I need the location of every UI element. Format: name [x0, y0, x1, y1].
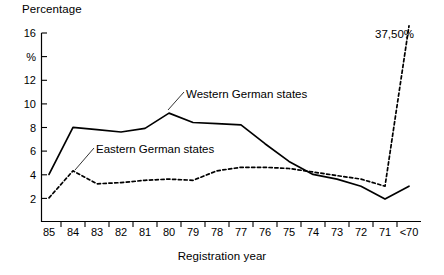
series-label-eastern-german-states: Eastern German states	[96, 143, 214, 155]
x-axis-title: Registration year	[0, 250, 444, 262]
x-axis-ticks	[61, 222, 397, 228]
leader-line-eastern	[75, 148, 94, 170]
peak-value-annotation: 37,50%	[375, 28, 414, 40]
leader-line-western	[168, 92, 184, 110]
series-line-western-german-states	[49, 113, 409, 199]
series-line-eastern-german-states	[49, 26, 409, 198]
plot-area	[0, 0, 444, 275]
series-label-western-german-states: Western German states	[186, 88, 307, 100]
line-chart: Percentage 16 % 12 10 8 6 4 2 85 84 83 8…	[0, 0, 444, 275]
y-axis-ticks	[42, 33, 48, 198]
